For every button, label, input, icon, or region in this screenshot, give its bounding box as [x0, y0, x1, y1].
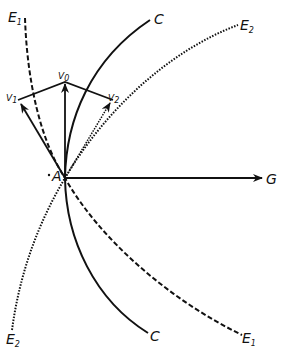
- e1-bottom-label: E1: [242, 330, 256, 348]
- v0-label: V0: [58, 71, 69, 83]
- diagram-canvas: A V0 V1 V2 G C C E1 E1 E2 E2: [0, 0, 290, 354]
- e2-top-label: E2: [240, 17, 254, 35]
- e1-top-label: E1: [8, 9, 22, 27]
- point-a-label: A: [51, 168, 62, 184]
- curve-c-lower: [65, 178, 148, 333]
- point-a-dot: [48, 174, 50, 176]
- v1-label: V1: [6, 93, 17, 105]
- c-top-label: C: [154, 11, 164, 27]
- vector-v1: [21, 104, 65, 178]
- c-bottom-label: C: [150, 328, 160, 344]
- g-label: G: [266, 171, 277, 187]
- e2-bottom-label: E2: [6, 331, 20, 349]
